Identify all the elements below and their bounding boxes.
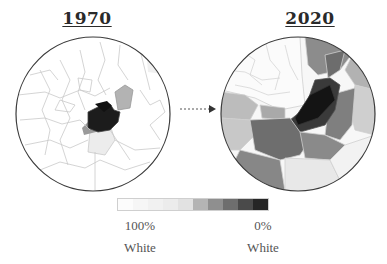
legend-swatch-8 [223, 199, 238, 210]
legend-swatch-6 [193, 199, 208, 210]
legend-left-label: White [124, 240, 156, 256]
map-2020 [221, 37, 375, 191]
legend-swatch-2 [133, 199, 148, 210]
legend-right-label: White [247, 240, 279, 256]
legend-swatch-1 [118, 199, 133, 210]
legend-color-scale [117, 198, 269, 211]
legend-swatch-7 [208, 199, 223, 210]
map-1970 [16, 35, 170, 191]
legend-left-value: 100% [125, 218, 155, 234]
legend-right-value: 0% [254, 218, 271, 234]
transition-arrow-icon [180, 105, 216, 113]
maps-canvas [0, 0, 387, 264]
legend-swatch-10 [253, 199, 268, 210]
legend-swatch-3 [148, 199, 163, 210]
legend-swatch-4 [163, 199, 178, 210]
legend-swatch-5 [178, 199, 193, 210]
legend-swatch-9 [238, 199, 253, 210]
